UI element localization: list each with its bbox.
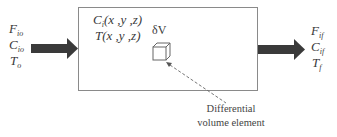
outlet-temperature-label: Tf: [312, 56, 321, 74]
temperature-field-label: T(x ,y ,z): [95, 29, 141, 42]
annotation-line-2: volume element: [190, 117, 272, 129]
dashed-pointer-arrow-icon: [166, 62, 226, 103]
outlet-arrow-icon: [258, 39, 305, 60]
inlet-arrow-icon: [31, 38, 78, 59]
inlet-temperature-label: To: [10, 54, 21, 72]
annotation-line-1: Differential: [190, 103, 272, 115]
differential-volume-annotation: Differential volume element: [190, 103, 272, 129]
volume-element-cube-icon: [153, 43, 170, 60]
diagram-graphics: [0, 0, 337, 137]
delta-v-label: δV: [152, 24, 166, 37]
